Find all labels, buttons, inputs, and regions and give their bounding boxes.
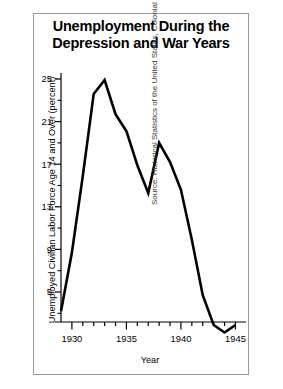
- chart-figure: Unemployment During the Depression and W…: [0, 0, 283, 389]
- data-series: [61, 80, 235, 332]
- line-chart-plot: 5913172125 1930193519401945: [33, 13, 249, 375]
- x-tick-label: 1945: [225, 333, 246, 344]
- x-tick-label: 1935: [116, 333, 137, 344]
- x-tick-label: 1930: [61, 333, 82, 344]
- x-axis-label: Year: [60, 355, 240, 365]
- x-tick-label: 1940: [171, 333, 192, 344]
- y-axis-label: Unemployed Civilian Labor Force Age 14 a…: [47, 75, 57, 325]
- x-axis: 1930193519401945: [55, 322, 246, 344]
- unemployment-line: [61, 80, 235, 332]
- source-note: Source: Historical Statistics of the Uni…: [150, 0, 159, 205]
